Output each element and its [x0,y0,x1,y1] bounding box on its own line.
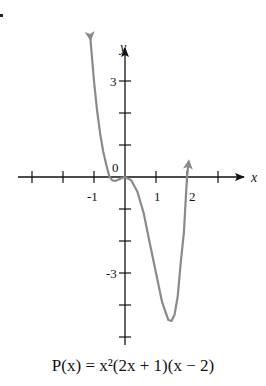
x-axis-label: x [250,170,258,185]
x-tick-label: 2 [189,189,196,204]
polynomial-chart: xy0-1123-3 [0,0,266,386]
origin-label: 0 [112,160,119,175]
y-axis-label: y [118,40,127,55]
axes [18,48,244,345]
y-tick-label: 3 [110,74,117,89]
x-tick-label: 1 [154,189,161,204]
axis-labels: xy0-1123-3 [87,40,258,281]
y-tick-label: -3 [106,266,117,281]
function-caption: P(x) = x²(2x + 1)(x − 2) [0,356,266,376]
x-tick-label: -1 [87,189,98,204]
